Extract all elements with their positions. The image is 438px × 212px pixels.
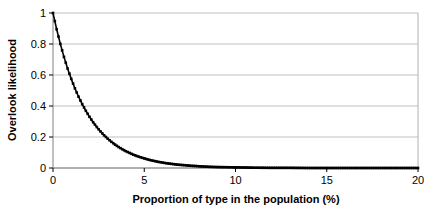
y-tick-label: 0.2 — [31, 131, 46, 143]
overlook-likelihood-chart: 05101520 00.20.40.60.81 Proportion of ty… — [0, 0, 438, 212]
data-point-marker — [54, 20, 57, 23]
x-tick-label: 5 — [141, 174, 147, 186]
data-point-marker — [79, 99, 82, 102]
data-point-marker — [74, 87, 77, 90]
x-tick-label: 0 — [50, 174, 56, 186]
y-tick-label: 0.4 — [31, 100, 46, 112]
data-point-marker — [85, 110, 88, 113]
data-point-marker — [68, 72, 71, 75]
data-point-marker — [86, 113, 89, 116]
data-point-marker — [94, 123, 97, 126]
data-point-marker — [72, 82, 75, 85]
data-point-marker — [77, 95, 80, 98]
data-point-marker — [55, 28, 58, 31]
chart-container: 05101520 00.20.40.60.81 Proportion of ty… — [0, 0, 438, 212]
y-tick-label: 0.8 — [31, 38, 46, 50]
data-point-marker — [75, 91, 78, 94]
x-tick-label: 10 — [229, 174, 241, 186]
x-tick-label: 20 — [412, 174, 424, 186]
data-point-marker — [88, 116, 91, 119]
data-point-marker — [59, 43, 62, 46]
data-point-marker — [81, 103, 84, 106]
data-point-marker — [417, 167, 420, 170]
data-point-marker — [70, 78, 73, 81]
data-point-marker — [83, 106, 86, 109]
data-point-marker — [57, 35, 60, 38]
y-axis-title: Overlook likelihood — [6, 39, 18, 141]
x-tick-label: 15 — [321, 174, 333, 186]
data-point-marker — [92, 121, 95, 124]
data-point-marker — [52, 12, 55, 15]
y-tick-label: 0.6 — [31, 69, 46, 81]
data-point-marker — [63, 56, 66, 59]
x-axis-title: Proportion of type in the population (%) — [132, 193, 339, 205]
data-point-marker — [61, 49, 64, 52]
y-tick-label: 1 — [40, 7, 46, 19]
data-point-marker — [66, 67, 69, 70]
data-point-marker — [64, 61, 67, 64]
data-point-marker — [90, 118, 93, 121]
y-tick-label: 0 — [40, 162, 46, 174]
